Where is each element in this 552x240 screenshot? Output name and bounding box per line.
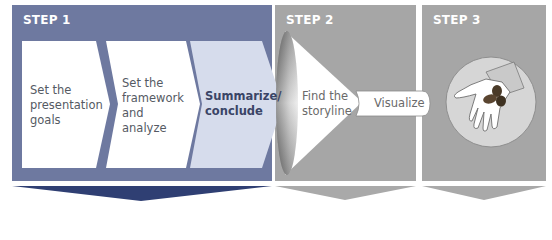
chevron-3-line-1: Summarize/ (205, 89, 282, 104)
chevron-2-text: Set the framework and analyze (122, 76, 184, 136)
funnel-line-2: storyline (302, 104, 352, 119)
chevron-2-line-1: Set the (122, 76, 184, 91)
chevron-2-line-4: analyze (122, 121, 184, 136)
chevron-3-line-2: conclude (205, 104, 282, 119)
hand-holding-seeds-icon (446, 57, 536, 147)
step-1-arrow (12, 186, 272, 201)
chevron-1-line-3: goals (30, 113, 103, 128)
chevron-1-text: Set the presentation goals (30, 83, 103, 128)
visualize-label: Visualize (374, 96, 425, 110)
step-3-arrow (422, 186, 546, 200)
chevron-1-line-2: presentation (30, 98, 103, 113)
funnel-text: Find the storyline (302, 89, 352, 119)
chevron-2-line-3: and (122, 106, 184, 121)
step-2-arrow (275, 186, 416, 200)
chevron-2-line-2: framework (122, 91, 184, 106)
chevron-3-text: Summarize/ conclude (205, 89, 282, 119)
funnel-line-1: Find the (302, 89, 352, 104)
chevron-1-line-1: Set the (30, 83, 103, 98)
